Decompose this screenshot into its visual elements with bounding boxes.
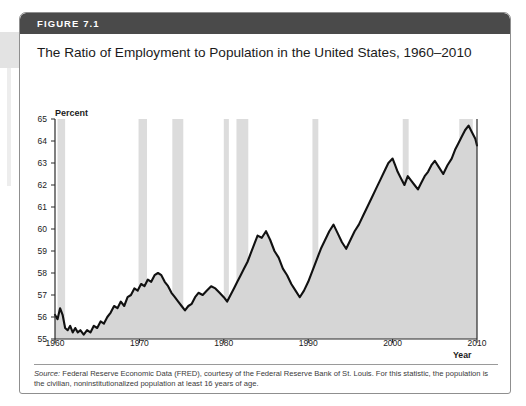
x-tick-label: 1960	[35, 338, 75, 348]
y-tick-label: 59	[29, 246, 47, 256]
chart-svg	[20, 13, 511, 394]
y-tick-label: 58	[29, 268, 47, 278]
y-tick-label: 62	[29, 180, 47, 190]
x-tick-label: 1970	[119, 338, 159, 348]
figure-container: FIGURE 7.1 The Ratio of Employment to Po…	[19, 12, 511, 394]
x-tick-label: 1980	[204, 338, 244, 348]
y-tick-label: 63	[29, 158, 47, 168]
y-tick-label: 56	[29, 312, 47, 322]
x-tick-label: 2010	[457, 338, 497, 348]
y-tick-label: 65	[29, 114, 47, 124]
x-tick-label: 2000	[373, 338, 413, 348]
y-tick-label: 61	[29, 202, 47, 212]
source-text: Federal Reserve Economic Data (FRED), co…	[34, 369, 488, 388]
source-prefix: Source:	[34, 369, 60, 378]
x-axis-title: Year	[453, 350, 471, 360]
y-tick-label: 57	[29, 290, 47, 300]
x-tick-label: 1990	[288, 338, 328, 348]
source-divider	[34, 364, 498, 365]
source-note: Source: Federal Reserve Economic Data (F…	[34, 369, 496, 389]
y-tick-label: 60	[29, 224, 47, 234]
y-tick-label: 64	[29, 136, 47, 146]
chart-plot-area	[20, 13, 511, 394]
